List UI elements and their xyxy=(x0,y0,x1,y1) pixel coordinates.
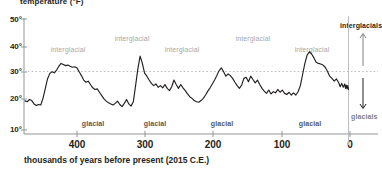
temperature-curve xyxy=(25,52,349,107)
down-arrow-icon xyxy=(360,78,366,109)
plot-area xyxy=(0,0,382,172)
temperature-chart: temperature (°F) 50° 40° 30° 20° 10° 400… xyxy=(0,0,382,172)
up-arrow-icon xyxy=(360,34,366,67)
